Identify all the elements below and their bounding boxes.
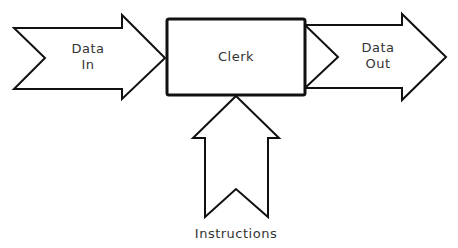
clerk-label-text: Clerk bbox=[218, 49, 254, 64]
data-in-label-line1: Data bbox=[58, 41, 118, 57]
clerk-label: Clerk bbox=[196, 49, 276, 65]
data-out-label: Data Out bbox=[348, 40, 408, 72]
diagram-canvas bbox=[0, 0, 458, 248]
instructions-arrow bbox=[193, 96, 279, 217]
data-in-label: Data In bbox=[58, 41, 118, 73]
data-out-label-line2: Out bbox=[348, 56, 408, 72]
data-in-label-line2: In bbox=[58, 57, 118, 73]
instructions-label-text: Instructions bbox=[195, 226, 277, 241]
instructions-label: Instructions bbox=[186, 226, 286, 242]
data-out-label-line1: Data bbox=[348, 40, 408, 56]
